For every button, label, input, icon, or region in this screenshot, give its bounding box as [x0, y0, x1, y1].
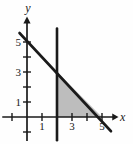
y-tick-label-3: 3: [16, 66, 22, 78]
graph-canvas: 135135xy: [0, 0, 133, 144]
y-axis-label: y: [24, 1, 31, 15]
x-axis-arrowhead-icon: [112, 113, 118, 120]
graph-figure: 135135xy: [0, 0, 133, 144]
x-tick-label-1: 1: [39, 120, 45, 132]
y-axis-arrowhead-icon: [23, 17, 30, 24]
y-tick-label-5: 5: [16, 36, 22, 48]
x-axis-label: x: [119, 110, 126, 124]
x-tick-label-3: 3: [69, 120, 75, 132]
y-tick-label-1: 1: [16, 96, 22, 108]
